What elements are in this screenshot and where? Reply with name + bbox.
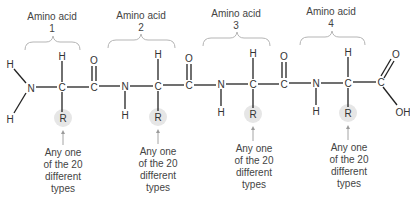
label-text: Amino acid: [116, 10, 165, 21]
atom-o: O: [185, 53, 193, 64]
note-line: different: [45, 171, 81, 182]
atom-h: H: [58, 51, 65, 62]
note-line: types: [242, 179, 266, 190]
brace-4: [300, 31, 365, 45]
atom-h: H: [154, 49, 161, 60]
atom-h: H: [344, 47, 351, 58]
r-group-note-4: Any one of the 20 different types: [330, 142, 369, 189]
atom-h: H: [121, 110, 128, 121]
atom-c-carbonyl: C: [280, 79, 287, 90]
brace-1: [25, 36, 80, 50]
amino-acid-label-1: Amino acid 1: [27, 11, 76, 34]
atom-c-carboxyl: C: [377, 77, 384, 88]
atom-h: H: [249, 48, 256, 59]
atom-r-group: R: [249, 109, 256, 120]
atom-o: O: [280, 51, 288, 62]
atom-n: N: [312, 78, 319, 89]
atom-h: H: [6, 114, 13, 125]
atom-h: H: [312, 106, 319, 117]
atom-h: H: [217, 107, 224, 118]
note-line: different: [236, 167, 272, 178]
atom-r-group: R: [344, 108, 351, 119]
label-number: 2: [138, 22, 144, 33]
note-line: of the 20: [139, 158, 178, 169]
note-line: Any one: [331, 142, 368, 153]
label-text: Amino acid: [211, 8, 260, 19]
note-line: of the 20: [235, 155, 274, 166]
label-number: 3: [233, 20, 239, 31]
label-text: Amino acid: [27, 11, 76, 22]
atom-n: N: [27, 83, 34, 94]
atom-c-alpha: C: [154, 81, 161, 92]
atom-n: N: [217, 79, 224, 90]
note-line: different: [331, 166, 367, 177]
amino-acid-label-4: Amino acid 4: [306, 6, 355, 29]
note-line: types: [51, 183, 75, 194]
atom-oh: OH: [396, 107, 410, 118]
atom-r-group: R: [59, 113, 66, 124]
r-group-note-3: Any one of the 20 different types: [235, 143, 274, 190]
atom-c-alpha: C: [58, 82, 65, 93]
atom-c-carbonyl: C: [90, 82, 97, 93]
atom-n: N: [121, 81, 128, 92]
atom-r-group: R: [154, 112, 161, 123]
brace-2: [108, 34, 175, 48]
brace-3: [203, 32, 270, 46]
amino-acid-label-2: Amino acid 2: [116, 10, 165, 33]
note-line: types: [337, 178, 361, 189]
peptide-diagram: Amino acid 1 Amino acid 2 Amino acid 3 A…: [0, 0, 410, 199]
atom-h: H: [6, 59, 13, 70]
note-line: of the 20: [44, 159, 83, 170]
atom-o: O: [90, 55, 98, 66]
atom-c-alpha: C: [249, 79, 256, 90]
r-group-note-2: Any one of the 20 different types: [139, 146, 178, 193]
note-line: different: [140, 170, 176, 181]
amino-acid-label-3: Amino acid 3: [211, 8, 260, 31]
label-number: 1: [49, 23, 55, 34]
note-line: Any one: [45, 147, 82, 158]
atom-c-carbonyl: C: [185, 80, 192, 91]
note-line: of the 20: [330, 154, 369, 165]
note-line: types: [146, 182, 170, 193]
r-group-note-1: Any one of the 20 different types: [44, 147, 83, 194]
note-line: Any one: [236, 143, 273, 154]
label-text: Amino acid: [306, 6, 355, 17]
atom-c-alpha: C: [344, 78, 351, 89]
atom-o: O: [392, 49, 400, 60]
note-line: Any one: [140, 146, 177, 157]
bonds: [14, 57, 397, 113]
label-number: 4: [328, 18, 334, 29]
arrows: [61, 125, 350, 145]
